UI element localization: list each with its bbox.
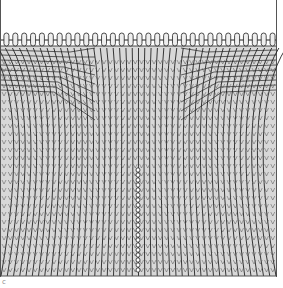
knitting-illustration [0, 0, 283, 288]
figure-caption-mark: c [2, 278, 6, 286]
